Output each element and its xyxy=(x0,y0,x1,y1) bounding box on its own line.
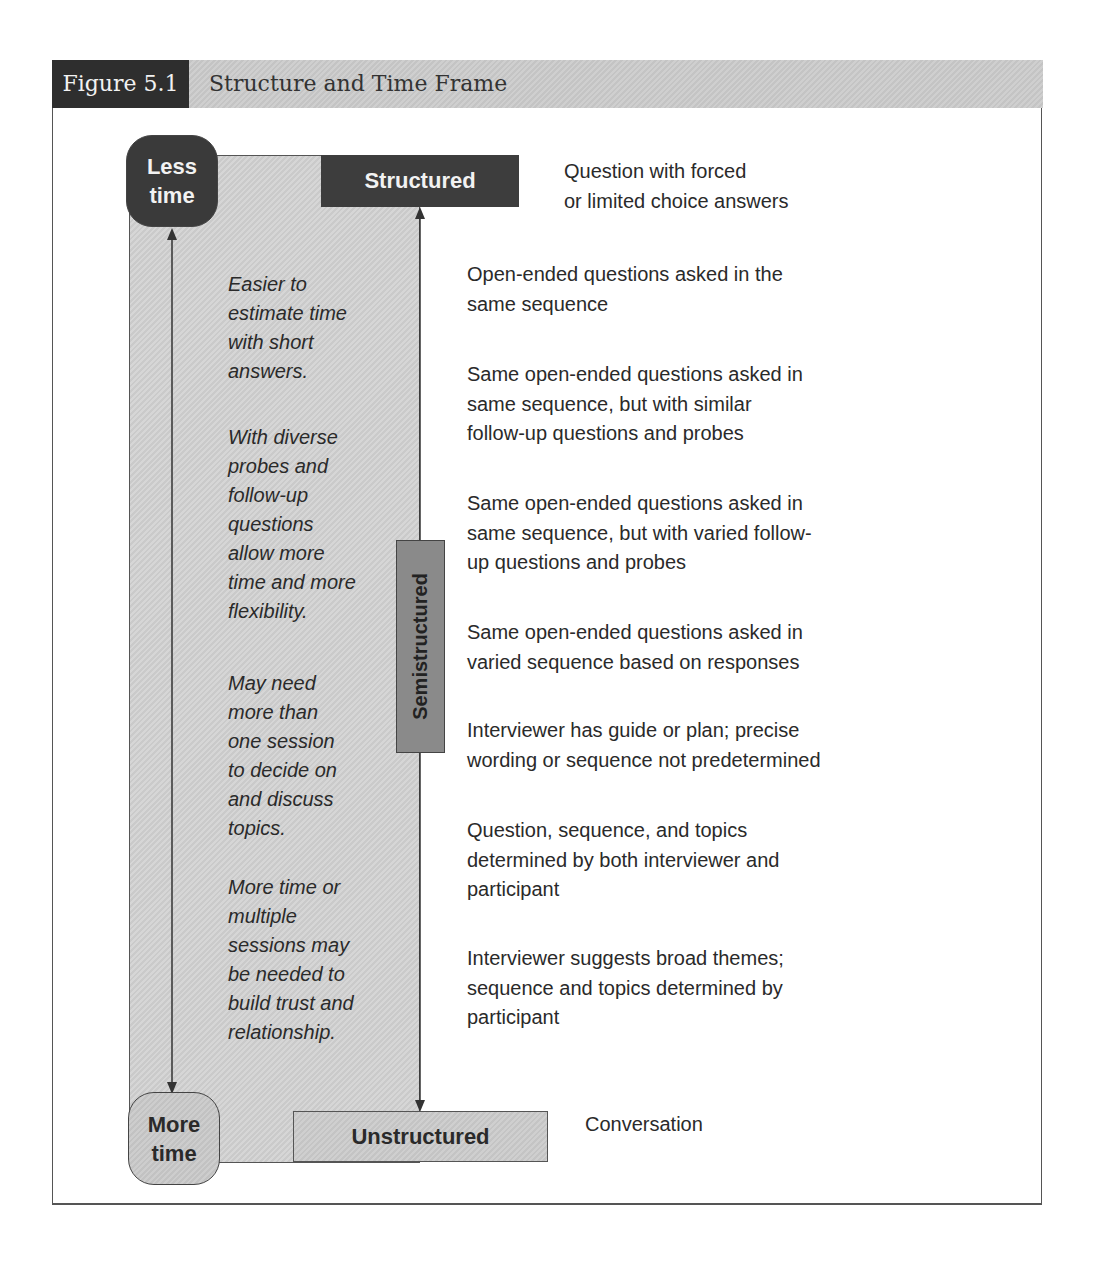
less-time-badge: Less time xyxy=(126,135,218,227)
desc-line: follow-up questions and probes xyxy=(467,419,887,449)
note-line: and discuss xyxy=(228,785,388,814)
desc-line: Interviewer suggests broad themes; xyxy=(467,944,887,974)
desc-line: Interviewer has guide or plan; precise xyxy=(467,716,887,746)
note-line: multiple xyxy=(228,902,388,931)
note-line: build trust and xyxy=(228,989,388,1018)
desc-line: sequence and topics determined by xyxy=(467,974,887,1004)
note-line: More time or xyxy=(228,873,388,902)
note-line: allow more xyxy=(228,539,388,568)
note-line: With diverse xyxy=(228,423,388,452)
desc-line: same sequence, but with similar xyxy=(467,390,887,420)
note-line: be needed to xyxy=(228,960,388,989)
note-line: with short xyxy=(228,328,388,357)
desc-line: determined by both interviewer and xyxy=(467,846,887,876)
desc-line: Open-ended questions asked in the xyxy=(467,260,887,290)
more-time-line-2: time xyxy=(151,1139,196,1168)
description-item-3: Same open-ended questions asked in same … xyxy=(467,489,887,578)
figure-header-bar xyxy=(52,60,1043,108)
less-time-line-1: Less xyxy=(147,152,197,181)
note-line: estimate time xyxy=(228,299,388,328)
description-item-4: Same open-ended questions asked in varie… xyxy=(467,618,887,677)
note-line: May need xyxy=(228,669,388,698)
semistructured-box: Semistructured xyxy=(396,540,445,753)
time-arrow-icon xyxy=(160,228,184,1094)
structured-box: Structured xyxy=(321,155,519,207)
less-time-line-2: time xyxy=(149,181,194,210)
desc-line: participant xyxy=(467,875,887,905)
desc-line: up questions and probes xyxy=(467,548,887,578)
note-line: probes and xyxy=(228,452,388,481)
left-note-4: More time or multiple sessions may be ne… xyxy=(228,873,388,1047)
note-line: questions xyxy=(228,510,388,539)
structured-label: Structured xyxy=(364,168,475,194)
desc-line: Question with forced xyxy=(564,157,984,187)
left-note-2: With diverse probes and follow-up questi… xyxy=(228,423,388,626)
figure-label: Figure 5.1 xyxy=(52,60,189,108)
left-note-3: May need more than one session to decide… xyxy=(228,669,388,843)
note-line: flexibility. xyxy=(228,597,388,626)
description-item-2: Same open-ended questions asked in same … xyxy=(467,360,887,449)
note-line: answers. xyxy=(228,357,388,386)
note-line: Easier to xyxy=(228,270,388,299)
unstructured-description: Conversation xyxy=(585,1110,1005,1140)
unstructured-box: Unstructured xyxy=(293,1111,548,1162)
more-time-line-1: More xyxy=(148,1110,201,1139)
description-item-6: Question, sequence, and topics determine… xyxy=(467,816,887,905)
note-line: relationship. xyxy=(228,1018,388,1047)
note-line: sessions may xyxy=(228,931,388,960)
unstructured-label: Unstructured xyxy=(351,1124,489,1150)
desc-line: same sequence xyxy=(467,290,887,320)
note-line: to decide on xyxy=(228,756,388,785)
figure-title: Structure and Time Frame xyxy=(209,60,507,108)
desc-line: Same open-ended questions asked in xyxy=(467,489,887,519)
desc-line: or limited choice answers xyxy=(564,187,984,217)
desc-line: Same open-ended questions asked in xyxy=(467,360,887,390)
note-line: follow-up xyxy=(228,481,388,510)
note-line: time and more xyxy=(228,568,388,597)
desc-line: Same open-ended questions asked in xyxy=(467,618,887,648)
left-note-1: Easier to estimate time with short answe… xyxy=(228,270,388,386)
description-item-1: Open-ended questions asked in the same s… xyxy=(467,260,887,319)
desc-line: Question, sequence, and topics xyxy=(467,816,887,846)
desc-line: participant xyxy=(467,1003,887,1033)
desc-line: varied sequence based on responses xyxy=(467,648,887,678)
structured-description: Question with forced or limited choice a… xyxy=(564,157,984,216)
semistructured-label: Semistructured xyxy=(409,573,432,720)
note-line: one session xyxy=(228,727,388,756)
desc-line: same sequence, but with varied follow- xyxy=(467,519,887,549)
desc-line: wording or sequence not predetermined xyxy=(467,746,887,776)
note-line: topics. xyxy=(228,814,388,843)
more-time-badge: More time xyxy=(128,1092,220,1185)
description-item-5: Interviewer has guide or plan; precise w… xyxy=(467,716,887,775)
note-line: more than xyxy=(228,698,388,727)
description-item-7: Interviewer suggests broad themes; seque… xyxy=(467,944,887,1033)
